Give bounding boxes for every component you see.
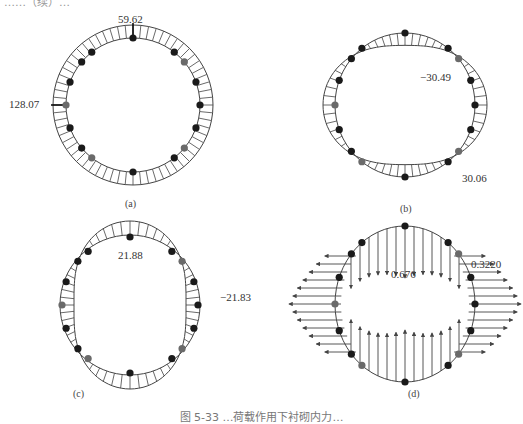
joint-node [192, 124, 199, 131]
joint-node [444, 45, 451, 52]
panel-b-label: (b) [400, 203, 412, 214]
joint-node [85, 248, 92, 255]
joint-node-gray [181, 144, 188, 151]
joint-node-gray [331, 300, 338, 307]
joint-node [471, 300, 478, 307]
joint-node [126, 369, 133, 376]
joint-node-gray [181, 58, 188, 65]
joint-node [190, 278, 197, 285]
joint-node [444, 362, 451, 369]
joint-node [336, 77, 343, 84]
joint-node [336, 126, 343, 133]
joint-node [66, 78, 73, 85]
joint-node [401, 173, 408, 180]
joint-node [190, 325, 197, 332]
joint-node-gray [331, 101, 338, 108]
joint-node-gray [88, 154, 95, 161]
joint-node [168, 248, 175, 255]
joint-node [358, 239, 365, 246]
joint-node-gray [455, 148, 462, 155]
joint-node [63, 325, 70, 332]
joint-node [168, 355, 175, 362]
joint-node [348, 55, 355, 62]
joint-node [129, 168, 136, 175]
joint-node [192, 78, 199, 85]
joint-node [78, 58, 85, 65]
panel-a-top-value: 59.62 [118, 13, 143, 25]
joint-node-gray [58, 301, 65, 308]
joint-node [129, 34, 136, 41]
joint-node-gray [358, 158, 365, 165]
joint-node [171, 154, 178, 161]
joint-node-gray [62, 101, 69, 108]
joint-node [467, 274, 474, 281]
panel-c-label: (c) [73, 388, 84, 399]
joint-node [401, 222, 408, 229]
panel-b-upper-right-value: −30.49 [420, 71, 451, 83]
joint-node-gray [178, 258, 185, 265]
panel-c-top-value: 21.88 [118, 249, 143, 261]
joint-node [196, 101, 203, 108]
joint-node [348, 250, 355, 257]
panel-c-diagram [58, 221, 201, 389]
joint-node [401, 29, 408, 36]
joint-node [74, 345, 81, 352]
joint-node-gray [455, 250, 462, 257]
figure-caption: 图 5-33 …荷载作用下衬砌内力… [0, 408, 523, 424]
joint-node [194, 301, 201, 308]
joint-node [471, 101, 478, 108]
panel-c-right-value: −21.83 [220, 291, 251, 303]
joint-node [78, 144, 85, 151]
joint-node-gray [455, 351, 462, 358]
panel-d-diagram [289, 222, 521, 385]
joint-node [467, 77, 474, 84]
panel-a-left-value: 128.07 [9, 98, 39, 110]
joint-node [66, 124, 73, 131]
joint-node [401, 378, 408, 385]
joint-node [63, 278, 70, 285]
joint-node [467, 126, 474, 133]
panel-b-lower-right-value: 30.06 [462, 172, 487, 184]
joint-node-gray [85, 355, 92, 362]
joint-node-gray [178, 345, 185, 352]
panel-d-label: (d) [408, 388, 420, 399]
joint-node [444, 158, 451, 165]
joint-node [74, 258, 81, 265]
joint-node [358, 45, 365, 52]
joint-node [467, 327, 474, 334]
panel-a-label: (a) [125, 198, 136, 209]
joint-node [88, 49, 95, 56]
panel-d-upper-right-value: 0.3220 [471, 258, 501, 270]
joint-node [348, 148, 355, 155]
joint-node-gray [455, 55, 462, 62]
joint-node-gray [358, 362, 365, 369]
joint-node [444, 239, 451, 246]
joint-node [171, 49, 178, 56]
joint-node [336, 327, 343, 334]
joint-node [126, 233, 133, 240]
joint-node [348, 351, 355, 358]
panel-a-diagram [51, 23, 213, 185]
joint-node [336, 274, 343, 281]
panel-d-top-value: 0.676 [391, 268, 416, 280]
panel-b-diagram [323, 29, 487, 180]
